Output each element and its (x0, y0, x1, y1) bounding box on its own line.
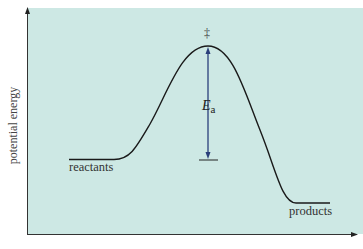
y-axis-arrow-icon (25, 7, 30, 14)
ea-symbol: E (202, 98, 211, 113)
ea-subscript: a (211, 103, 216, 115)
y-axis-label: potential energy (6, 81, 21, 171)
products-label: products (289, 204, 332, 219)
energy-curve (69, 46, 330, 203)
x-axis-arrow-icon (351, 232, 358, 237)
ea-arrow-down-icon (206, 152, 211, 159)
reactants-label: reactants (69, 160, 113, 175)
activation-energy-label: Ea (202, 98, 215, 115)
ea-arrow-up-icon (206, 47, 211, 54)
transition-state-symbol: ‡ (204, 26, 210, 41)
